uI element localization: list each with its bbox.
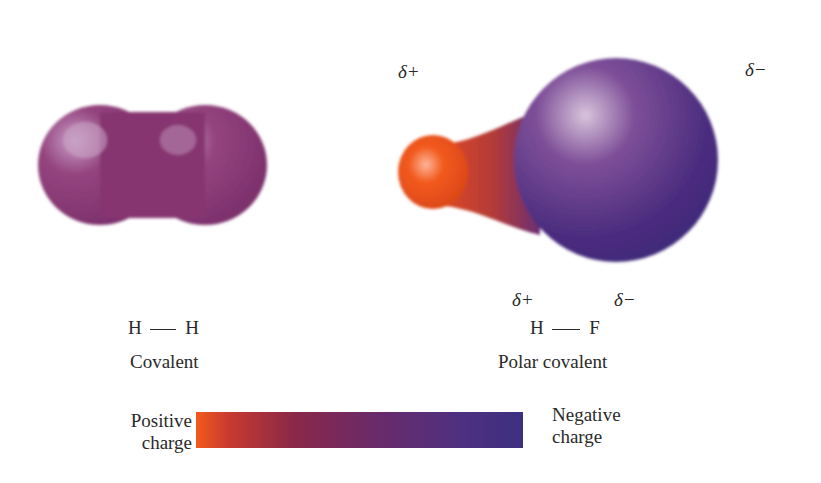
top-negative-charge: δ− [745, 60, 767, 79]
atom-h: H [530, 317, 544, 338]
bond-line [150, 329, 176, 330]
hf-electron-cloud [398, 58, 718, 262]
h2-formula: H H [128, 318, 199, 337]
charge-gradient-bar [196, 412, 523, 448]
negative-charge-label: Negative charge [552, 404, 621, 448]
top-positive-charge: δ+ [398, 62, 420, 81]
h2-electron-cloud [38, 105, 267, 225]
f-partial-negative: δ− [614, 290, 636, 309]
bond-line [552, 329, 580, 330]
legend-text: charge [114, 432, 192, 454]
legend-text: Negative [552, 404, 621, 426]
polar-covalent-label: Polar covalent [498, 352, 607, 371]
legend-text: Positive [114, 410, 192, 432]
atom-h: H [128, 317, 142, 338]
hf-formula: H F [530, 318, 600, 337]
h-partial-positive: δ+ [512, 290, 534, 309]
covalent-label: Covalent [130, 352, 199, 371]
legend-text: charge [552, 426, 621, 448]
atom-f: F [589, 317, 600, 338]
atom-h: H [185, 317, 199, 338]
positive-charge-label: Positive charge [114, 410, 192, 454]
